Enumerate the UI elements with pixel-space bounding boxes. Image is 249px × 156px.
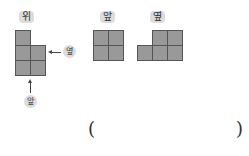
top-view-label: 위 xyxy=(19,11,34,23)
top-view-cell xyxy=(15,30,31,46)
answer-close-paren: ) xyxy=(236,118,243,139)
front-view-label: 앞 xyxy=(100,11,115,23)
side-view-cell xyxy=(167,45,183,61)
top-view-cell xyxy=(30,45,46,61)
front-arrowhead-icon xyxy=(28,79,32,83)
front-view-cell xyxy=(93,30,109,46)
front-view-cell xyxy=(108,30,124,46)
front-view-cell xyxy=(93,45,109,61)
front-direction-label: 앞 xyxy=(24,95,37,108)
top-view-cell xyxy=(30,60,46,76)
side-view-cell xyxy=(137,45,153,61)
answer-open-paren: ( xyxy=(88,118,95,139)
side-view-cell xyxy=(167,30,183,46)
side-arrowhead-icon xyxy=(48,50,52,54)
answer-field[interactable] xyxy=(100,120,230,140)
side-view-label: 옆 xyxy=(150,11,165,23)
side-direction-label: 옆 xyxy=(63,45,76,58)
front-view-cell xyxy=(108,45,124,61)
top-view-cell xyxy=(15,60,31,76)
side-view-cell xyxy=(152,45,168,61)
side-view-cell xyxy=(152,30,168,46)
top-view-cell xyxy=(15,45,31,61)
